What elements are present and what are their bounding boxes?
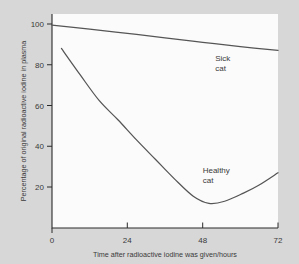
x-tick-label-72: 72 xyxy=(274,236,283,245)
x-tick-label-48: 48 xyxy=(198,236,207,245)
y-axis-title: Percentage of original radioactive iodin… xyxy=(19,41,28,202)
y-tick-label-40: 40 xyxy=(35,142,44,151)
series-label-healthy-cat-line2: cat xyxy=(203,176,214,185)
y-tick-label-20: 20 xyxy=(35,183,44,192)
y-tick-label-80: 80 xyxy=(35,61,44,70)
series-label-healthy-cat-line1: Healthy xyxy=(203,166,230,175)
x-tick-label-0: 0 xyxy=(50,236,55,245)
series-label-sick-cat-line2: cat xyxy=(215,64,226,73)
series-label-sick-cat-line1: Sick xyxy=(215,54,231,63)
y-tick-label-60: 60 xyxy=(35,102,44,111)
x-tick-label-24: 24 xyxy=(123,236,132,245)
chart-figure: 100 80 60 40 20 0 24 48 72 Time after ra… xyxy=(0,0,299,264)
y-tick-label-100: 100 xyxy=(31,20,45,29)
x-axis-title: Time after radioactive iodine was given/… xyxy=(93,250,237,259)
plot-area-background xyxy=(52,14,278,228)
